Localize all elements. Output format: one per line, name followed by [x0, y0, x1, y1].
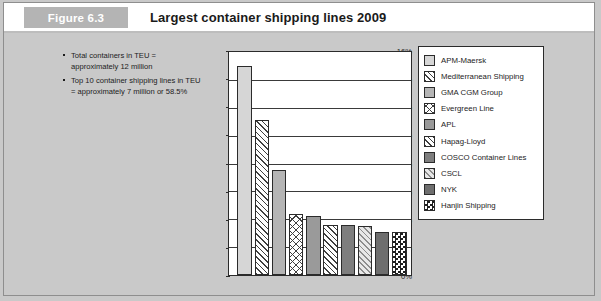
legend-swatch-icon — [424, 87, 435, 98]
bar-slot — [391, 52, 408, 275]
legend-item: CSCL — [424, 165, 539, 181]
legend-item: Hanjin Shipping — [424, 198, 539, 214]
bar-apm-maersk — [237, 66, 251, 275]
legend-item-label: Mediterranean Shipping — [441, 72, 524, 81]
plot-area — [228, 51, 412, 276]
legend-swatch-icon — [424, 103, 435, 114]
legend-item: Mediterranean Shipping — [424, 68, 539, 84]
legend-item: APM-Maersk — [424, 52, 539, 68]
legend-swatch-icon — [424, 200, 435, 211]
bar-slot — [374, 52, 391, 275]
bar-slot — [322, 52, 339, 275]
legend-item-label: Hapag-Lloyd — [441, 137, 485, 146]
bar-hanjin-shipping — [392, 232, 406, 275]
bar-slot — [339, 52, 356, 275]
bar-slot — [305, 52, 322, 275]
figure-page: Figure 6.3 Largest container shipping li… — [0, 0, 601, 301]
bar-series — [229, 52, 411, 275]
bar-apl — [306, 216, 320, 275]
bar-cscl — [358, 226, 372, 275]
legend-item: GMA CGM Group — [424, 84, 539, 100]
legend-item-label: GMA CGM Group — [441, 88, 503, 97]
legend-item-label: Evergreen Line — [441, 104, 494, 113]
legend-item: NYK — [424, 182, 539, 198]
bar-slot — [253, 52, 270, 275]
notes-list: Total containers in TEU = approximately … — [62, 50, 202, 100]
legend-swatch-icon — [424, 71, 435, 82]
bar-gma-cgm-group — [272, 170, 286, 275]
legend-item: Evergreen Line — [424, 101, 539, 117]
legend-item: Hapag-Lloyd — [424, 133, 539, 149]
y-axis-tick-mark — [226, 276, 230, 277]
figure-title: Largest container shipping lines 2009 — [150, 7, 386, 28]
legend-swatch-icon — [424, 136, 435, 147]
bar-evergreen-line — [289, 214, 303, 275]
legend-item-label: COSCO Container Lines — [441, 153, 526, 162]
legend-item: COSCO Container Lines — [424, 149, 539, 165]
legend-item-label: NYK — [441, 185, 457, 194]
legend-swatch-icon — [424, 168, 435, 179]
header-divider — [4, 31, 594, 33]
bar-mediterranean-shipping — [255, 120, 269, 275]
legend-swatch-icon — [424, 119, 435, 130]
legend-item-label: Hanjin Shipping — [441, 201, 496, 210]
legend-swatch-icon — [424, 184, 435, 195]
legend-item-label: APM-Maersk — [441, 56, 486, 65]
legend-item-label: CSCL — [441, 169, 462, 178]
figure-header: Figure 6.3 Largest container shipping li… — [4, 3, 594, 31]
bar-slot — [288, 52, 305, 275]
bar-hapag-lloyd — [323, 225, 337, 275]
bar-cosco-container-lines — [341, 225, 355, 275]
list-item: Top 10 container shipping lines in TEU =… — [62, 75, 202, 97]
bar-slot — [270, 52, 287, 275]
bar-nyk — [375, 232, 389, 275]
figure-number-tag: Figure 6.3 — [24, 7, 128, 28]
legend-item: APL — [424, 117, 539, 133]
bar-slot — [236, 52, 253, 275]
legend-item-label: APL — [441, 120, 456, 129]
bar-slot — [356, 52, 373, 275]
legend-swatch-icon — [424, 55, 435, 66]
legend-swatch-icon — [424, 152, 435, 163]
chart-legend: APM-MaerskMediterranean ShippingGMA CGM … — [418, 46, 544, 220]
list-item: Total containers in TEU = approximately … — [62, 50, 202, 72]
bar-chart: 16%14%12%10%8%6%4%2%0% — [196, 44, 412, 288]
